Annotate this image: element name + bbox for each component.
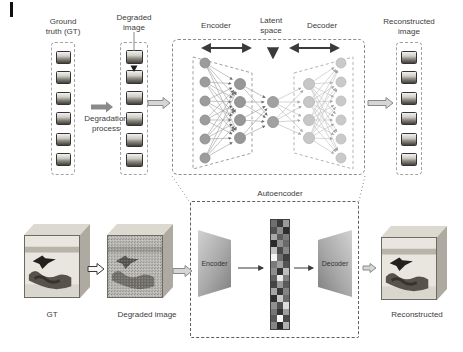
ground-truth-label-line1: Ground [50, 17, 77, 26]
latent-cell [283, 275, 289, 282]
latent-cell [283, 254, 289, 261]
degraded-cube-image [107, 235, 163, 298]
autoencoder-network-box [172, 39, 365, 175]
degraded-cube-side-face [163, 224, 173, 298]
reconstructed-cube-image [381, 237, 437, 300]
reconstructed-image-label: Reconstructed image [374, 17, 444, 37]
reconstructed-thumbnail [401, 51, 417, 64]
latent-label-line1: Latent [260, 16, 282, 25]
latent-cell [283, 268, 289, 275]
gt-thumbnail [56, 51, 71, 64]
latent-vector [270, 219, 290, 330]
gt-cube-side-face [80, 224, 90, 298]
latent-label-line2: space [260, 26, 281, 35]
degraded-image-label: Degraded image [104, 13, 164, 33]
latent-cell [283, 220, 289, 227]
reconstructed-thumbnail [401, 71, 417, 84]
degraded-thumbnail [126, 133, 143, 147]
decoder-label: Decoder [297, 21, 347, 31]
latent-cell [283, 281, 289, 288]
network-to-reconstructed-arrow [368, 98, 393, 109]
ground-truth-stack [51, 42, 75, 175]
degraded-thumbnail [126, 153, 143, 167]
latent-cell [283, 295, 289, 302]
gt-thumbnail [56, 133, 71, 146]
degraded-image-stack [120, 42, 148, 175]
latent-cell [283, 288, 289, 295]
latent-cell [283, 240, 289, 247]
reconstructed-label-line2: image [398, 27, 420, 36]
gt-cube [24, 224, 90, 298]
degraded-thumbnail [126, 50, 143, 64]
autoencoder-figure: Ground truth (GT) Degraded image Encoder… [0, 0, 463, 352]
reconstructed-image-stack [396, 42, 422, 175]
gt-thumbnail [56, 112, 71, 125]
gt-thumbnail [56, 71, 71, 84]
callout-connector-right [359, 176, 365, 201]
reconstructed-thumbnail [401, 92, 417, 105]
reconstructed-thumbnail [401, 153, 417, 166]
degradation-label-line2: process [92, 124, 120, 133]
reconstructed-cube [381, 226, 447, 300]
reconstructed-cube-top-face [381, 226, 447, 237]
callout-connector-left [172, 176, 189, 201]
reconstructed-label-line1: Reconstructed [383, 17, 435, 26]
degraded-cube [107, 224, 173, 298]
page-edge-mark [10, 2, 13, 17]
gt-to-degraded-arrow [88, 264, 104, 275]
latent-cell [283, 247, 289, 254]
latent-cell [283, 261, 289, 268]
autoencoder-label: Autoencoder [240, 189, 320, 199]
reconstructed-cube-label: Reconstructed [377, 310, 457, 320]
degraded-thumbnail [126, 91, 143, 105]
gt-thumbnail [56, 92, 71, 105]
degraded-thumbnail [126, 112, 143, 126]
degraded-thumbnail [126, 70, 143, 84]
latent-cell [283, 227, 289, 234]
gt-thumbnail [56, 153, 71, 166]
latent-cell [283, 309, 289, 316]
latent-cell [283, 322, 289, 329]
latent-cell [283, 315, 289, 322]
gt-cube-top-face [24, 224, 90, 235]
degraded-cube-top-face [107, 224, 173, 235]
gt-cube-image [24, 235, 80, 298]
latent-space-label: Latent space [246, 16, 296, 36]
reconstructed-thumbnail [401, 112, 417, 125]
degraded-label-line1: Degraded [116, 13, 151, 22]
encoder-label: Encoder [191, 21, 241, 31]
encoder-block: Encoder [198, 230, 231, 297]
latent-cell [283, 234, 289, 241]
degraded-label-line2: image [123, 23, 145, 32]
degradation-arrow [91, 102, 113, 113]
latent-cell [283, 302, 289, 309]
reconstructed-cube-side-face [437, 226, 447, 300]
decoder-block-label: Decoder [322, 260, 348, 267]
decoder-block: Decoder [318, 230, 352, 297]
autoencoder-to-reconstructed-arrow [363, 264, 376, 273]
degraded-to-network-arrow [148, 98, 170, 109]
ground-truth-label: Ground truth (GT) [33, 17, 93, 37]
encoder-block-label: Encoder [201, 260, 227, 267]
ground-truth-label-line2: truth (GT) [46, 27, 81, 36]
reconstructed-thumbnail [401, 133, 417, 146]
degraded-cube-label: Degraded image [107, 310, 187, 320]
gt-cube-label: GT [27, 310, 77, 320]
